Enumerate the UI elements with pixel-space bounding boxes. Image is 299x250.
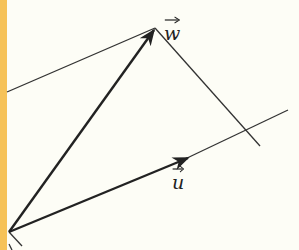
line-w-to-u-axis — [155, 28, 260, 146]
vector-diagram — [0, 0, 299, 250]
lower-line — [9, 232, 22, 246]
lower-line-left — [9, 244, 12, 250]
label-u-text: u — [172, 171, 184, 193]
vector-arrow-icon — [164, 16, 180, 24]
label-w-text: w — [164, 22, 180, 44]
vector-arrow-icon — [172, 165, 184, 173]
u-axis-extension — [185, 110, 288, 159]
label-u: u — [172, 173, 184, 192]
label-w: w — [164, 24, 180, 43]
